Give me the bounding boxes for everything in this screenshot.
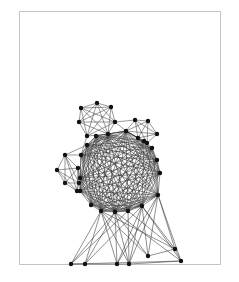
graph-edge: [65, 155, 77, 191]
graph-node: [142, 139, 146, 143]
graph-edge: [71, 211, 101, 264]
graph-node: [155, 158, 159, 162]
graph-node: [85, 134, 89, 138]
graph-edge: [57, 168, 78, 170]
graph-node: [113, 210, 117, 214]
graph-node: [99, 209, 103, 213]
network-graph: [0, 0, 239, 282]
graph-edges: [57, 103, 181, 264]
graph-node: [146, 119, 150, 123]
graph-edge: [148, 195, 158, 256]
graph-node: [79, 153, 83, 157]
graph-edge: [71, 211, 128, 264]
graph-node: [69, 262, 73, 266]
graph-node: [78, 189, 82, 193]
graph-edge: [115, 212, 129, 264]
graph-node: [85, 143, 89, 147]
graph-edge: [79, 122, 87, 136]
graph-node: [83, 262, 87, 266]
graph-node: [136, 136, 140, 140]
graph-node: [78, 176, 82, 180]
graph-node: [55, 168, 59, 172]
graph-edge: [148, 121, 157, 134]
graph-node: [94, 134, 98, 138]
graph-node: [127, 262, 131, 266]
graph-node: [173, 247, 177, 251]
graph-edge: [87, 145, 142, 206]
graph-node: [77, 181, 81, 185]
graph-node: [79, 106, 83, 110]
graph-edge: [57, 155, 65, 170]
graph-node: [77, 120, 81, 124]
graph-node: [124, 129, 128, 133]
graph-edge: [142, 206, 175, 249]
graph-edge: [57, 170, 65, 183]
graph-node: [140, 204, 144, 208]
graph-node: [156, 193, 160, 197]
graph-node: [95, 101, 99, 105]
graph-edge: [115, 120, 135, 122]
graph-node: [179, 259, 183, 263]
graph-node: [106, 132, 110, 136]
graph-node: [63, 181, 67, 185]
graph-node: [109, 105, 113, 109]
graph-edge: [158, 195, 181, 261]
graph-node: [113, 120, 117, 124]
graph-edge: [147, 121, 148, 143]
graph-node: [115, 262, 119, 266]
graph-edge: [148, 249, 175, 256]
graph-node: [133, 118, 137, 122]
graph-node: [89, 203, 93, 207]
graph-edge: [129, 206, 142, 264]
graph-edge: [79, 122, 108, 134]
graph-node: [146, 254, 150, 258]
graph-edge: [117, 206, 142, 264]
graph-node: [155, 132, 159, 136]
graph-node: [150, 146, 154, 150]
graph-edge: [65, 168, 78, 183]
graph-node: [126, 209, 130, 213]
graph-node: [63, 153, 67, 157]
graph-node: [76, 166, 80, 170]
graph-node: [158, 171, 162, 175]
